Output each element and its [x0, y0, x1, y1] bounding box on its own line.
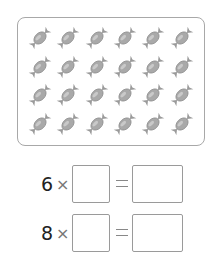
wrapped-candy-icon — [26, 81, 54, 109]
times-sign: × — [56, 175, 69, 194]
times-sign: × — [56, 224, 69, 243]
product-answer-box[interactable] — [132, 214, 183, 252]
wrapped-candy-icon — [139, 24, 167, 52]
wrapped-candy-icon — [54, 81, 82, 109]
wrapped-candy-icon — [111, 24, 139, 52]
wrapped-candy-icon — [139, 110, 167, 138]
product-answer-box[interactable] — [132, 165, 183, 203]
wrapped-candy-icon — [83, 53, 111, 81]
wrapped-candy-icon — [54, 110, 82, 138]
wrapped-candy-icon — [168, 53, 196, 81]
multiplier: 6 — [41, 173, 53, 195]
factor-answer-box[interactable] — [72, 214, 110, 252]
wrapped-candy-icon — [111, 81, 139, 109]
wrapped-candy-icon — [139, 53, 167, 81]
wrapped-candy-icon — [83, 81, 111, 109]
wrapped-candy-icon — [139, 81, 167, 109]
factor-answer-box[interactable] — [72, 165, 110, 203]
wrapped-candy-icon — [168, 24, 196, 52]
wrapped-candy-icon — [54, 24, 82, 52]
wrapped-candy-icon — [83, 24, 111, 52]
wrapped-candy-icon — [26, 24, 54, 52]
equation-row-2: 8 × — [0, 214, 216, 254]
wrapped-candy-icon — [111, 110, 139, 138]
equals-sign — [116, 229, 128, 236]
wrapped-candy-icon — [26, 110, 54, 138]
wrapped-candy-icon — [54, 53, 82, 81]
equation-row-1: 6 × — [0, 165, 216, 205]
wrapped-candy-icon — [111, 53, 139, 81]
wrapped-candy-icon — [26, 53, 54, 81]
equals-sign — [116, 180, 128, 187]
wrapped-candy-icon — [83, 110, 111, 138]
multiplier: 8 — [41, 222, 53, 244]
wrapped-candy-icon — [168, 81, 196, 109]
wrapped-candy-icon — [168, 110, 196, 138]
